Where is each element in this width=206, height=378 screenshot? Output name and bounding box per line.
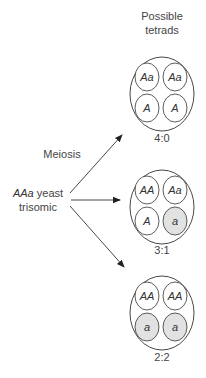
spore-genotype: Aa xyxy=(167,71,181,83)
spore-genotype: A xyxy=(142,215,150,227)
spore-genotype: Aa xyxy=(167,184,181,196)
spore: AA xyxy=(135,282,159,310)
spore: AA xyxy=(135,176,159,204)
spore-genotype: AA xyxy=(139,184,155,196)
meiosis-label: Meiosis xyxy=(43,148,81,160)
tetrad-2-2: AA AA a a 2:2 xyxy=(130,276,194,363)
spore-genotype: A xyxy=(170,102,178,114)
arrow-to-tetrad-2-2 xyxy=(70,206,124,267)
header-line-1: Possible xyxy=(141,10,183,22)
spore-genotype: a xyxy=(144,321,150,333)
tetrad-4-0: Aa Aa A A 4:0 xyxy=(130,57,194,144)
source-label-rest: yeast xyxy=(34,187,63,199)
spore-genotype: A xyxy=(142,102,150,114)
spore: Aa xyxy=(163,63,187,91)
spore-genotype: Aa xyxy=(139,71,153,83)
spore: A xyxy=(163,94,187,122)
source-label-line-2: trisomic xyxy=(19,201,57,213)
spore-shaded: a xyxy=(163,313,187,341)
tetrad-ratio: 2:2 xyxy=(154,351,169,363)
tetrad-ratio: 4:0 xyxy=(154,132,169,144)
spore-shaded: a xyxy=(163,207,187,235)
tetrad-ratio: 3:1 xyxy=(154,244,169,256)
spore-genotype: AA xyxy=(167,290,183,302)
spore: AA xyxy=(163,282,187,310)
source-genotype: AAa xyxy=(12,187,34,199)
source-label-line-1: AAa yeast xyxy=(12,187,63,199)
spore-genotype: AA xyxy=(139,290,155,302)
spore: Aa xyxy=(135,63,159,91)
spore: A xyxy=(135,207,159,235)
tetrad-3-1: AA Aa A a 3:1 xyxy=(130,170,194,256)
header-line-2: tetrads xyxy=(145,24,179,36)
spore-shaded: a xyxy=(135,313,159,341)
spore-genotype: a xyxy=(172,215,178,227)
trisomic-meiosis-diagram: Possible tetrads AAa yeast trisomic Meio… xyxy=(0,0,206,378)
spore-genotype: a xyxy=(172,321,178,333)
spore: Aa xyxy=(163,176,187,204)
spore: A xyxy=(135,94,159,122)
arrow-to-tetrad-4-0 xyxy=(70,135,122,193)
